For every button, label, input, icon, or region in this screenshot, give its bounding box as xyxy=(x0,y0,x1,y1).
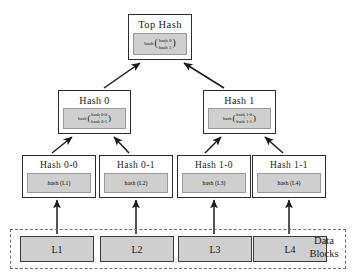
data-blocks-label: Data Blocks xyxy=(300,234,348,260)
hash-1-1-formula: hash (L4) xyxy=(257,173,321,193)
node-hash-1: Hash 1 hash ( hash 1-0 + hash 1-1 ) xyxy=(203,90,276,134)
hash-1-label: Hash 1 xyxy=(204,91,275,108)
arrow-hash1-to-top xyxy=(184,63,224,88)
data-blocks-label-line2: Blocks xyxy=(300,247,348,260)
hash-1-formula-fn: hash xyxy=(223,116,231,121)
top-hash-formula: hash ( hash 0 + hash 1 ) xyxy=(133,33,187,55)
node-hash-0-0: Hash 0-0 hash (L1) xyxy=(22,155,96,198)
hash-0-0-label: Hash 0-0 xyxy=(23,156,95,173)
arrow-hash00-to-hash0 xyxy=(52,137,72,153)
hash-1-formula: hash ( hash 1-0 + hash 1-1 ) xyxy=(208,108,271,129)
arrow-hash11-to-hash1 xyxy=(265,137,283,153)
node-hash-1-0: Hash 1-0 hash (L3) xyxy=(177,155,251,198)
top-hash-operand-bottom: hash 1 xyxy=(159,45,172,50)
data-block-l2: L2 xyxy=(100,236,174,262)
top-hash-formula-fn: hash xyxy=(144,41,153,46)
hash-1-operand-bottom: hash 1-1 xyxy=(236,120,252,125)
data-block-l3: L3 xyxy=(178,236,252,262)
hash-0-1-label: Hash 0-1 xyxy=(100,156,172,173)
hash-0-formula: hash ( hash 0-0 + hash 0-1 ) xyxy=(63,108,126,129)
merkle-tree-diagram: Top Hash hash ( hash 0 + hash 1 ) Hash 0… xyxy=(0,0,355,277)
data-blocks-label-line1: Data xyxy=(300,234,348,247)
node-hash-1-1: Hash 1-1 hash (L4) xyxy=(252,155,326,198)
data-block-l1: L1 xyxy=(20,236,94,262)
hash-1-0-formula: hash (L3) xyxy=(182,173,246,193)
hash-0-1-formula: hash (L2) xyxy=(104,173,168,193)
arrow-hash01-to-hash0 xyxy=(114,137,129,153)
hash-0-label: Hash 0 xyxy=(59,91,130,108)
arrow-hash10-to-hash1 xyxy=(205,137,221,153)
node-hash-0-1: Hash 0-1 hash (L2) xyxy=(99,155,173,198)
node-top-hash: Top Hash hash ( hash 0 + hash 1 ) xyxy=(128,14,192,60)
node-hash-0: Hash 0 hash ( hash 0-0 + hash 0-1 ) xyxy=(58,90,131,134)
hash-1-0-label: Hash 1-0 xyxy=(178,156,250,173)
hash-0-formula-fn: hash xyxy=(78,116,86,121)
top-hash-label: Top Hash xyxy=(129,15,191,33)
hash-0-operand-bottom: hash 0-1 xyxy=(91,120,107,125)
arrow-hash0-to-top xyxy=(104,63,140,88)
hash-0-0-formula: hash (L1) xyxy=(27,173,91,193)
hash-1-1-label: Hash 1-1 xyxy=(253,156,325,173)
